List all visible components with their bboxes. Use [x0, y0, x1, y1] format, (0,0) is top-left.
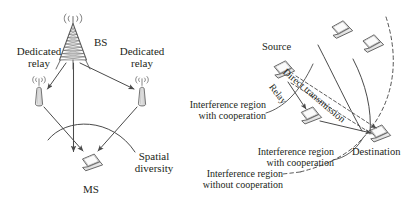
laptop-icon-ms: [81, 153, 103, 171]
label-interference-with-cooperation-2: Interference region with cooperation: [244, 146, 334, 168]
label-line-1: Interference region: [207, 168, 283, 179]
laptop-icon-other-2: [361, 33, 384, 53]
label-destination: Destination: [352, 146, 400, 158]
link-relay-to-destination: [320, 121, 371, 133]
label-line-1: Dedicated: [120, 45, 165, 57]
label-line-2: relay: [28, 57, 50, 69]
label-line-2: relay: [131, 57, 153, 69]
label-dedicated-relay-right: Dedicated relay: [105, 45, 179, 70]
label-spatial-diversity: Spatial diversity: [124, 150, 184, 175]
spatial-diversity-arc: [48, 124, 135, 152]
label-line-2: with cooperation: [199, 110, 266, 121]
label-line-1: Interference region: [258, 146, 334, 157]
label-line-1: Dedicated: [17, 45, 62, 57]
label-source: Source: [262, 41, 291, 53]
label-line-2: without cooperation: [203, 179, 283, 190]
leader-interference-3: [283, 172, 300, 174]
figure-root: BS Dedicated relay Dedicated relay Spati…: [0, 0, 419, 206]
laptop-icon-other-1: [330, 19, 353, 39]
relay-antenna-icon-left: [33, 77, 46, 107]
link-bs-to-nodes: [48, 63, 135, 156]
link-relays-to-ms: [44, 107, 137, 151]
label-line-1: Interference region: [190, 99, 266, 110]
label-interference-with-cooperation-1: Interference region with cooperation: [178, 99, 266, 121]
label-ms: MS: [74, 183, 108, 195]
label-line-2: with cooperation: [267, 157, 334, 168]
label-line-1: Spatial: [139, 150, 170, 162]
relay-antenna-icon-right: [136, 77, 149, 107]
label-line-2: diversity: [135, 162, 174, 174]
label-interference-without-cooperation: Interference region without cooperation: [190, 168, 283, 190]
laptop-icon-relay: [300, 106, 322, 125]
label-dedicated-relay-left: Dedicated relay: [2, 45, 76, 70]
